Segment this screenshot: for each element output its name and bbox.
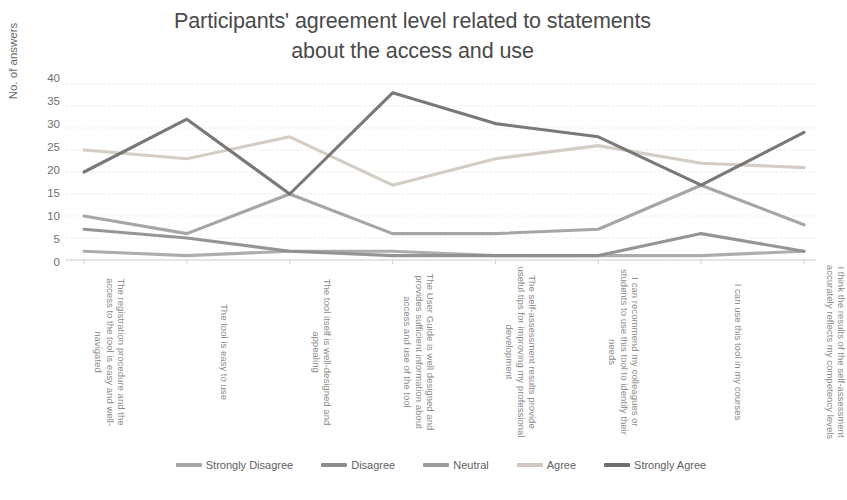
legend-label: Strongly Agree	[634, 459, 706, 471]
chart-title: Participants' agreement level related to…	[60, 6, 765, 66]
series-line-neutral	[84, 185, 804, 233]
legend-item-disagree[interactable]: Disagree	[321, 459, 395, 471]
y-tick-40: 40	[24, 72, 60, 84]
legend-item-strongly-agree[interactable]: Strongly Agree	[604, 459, 706, 471]
x-axis-category-labels: The registration procedure and the acces…	[66, 264, 816, 442]
legend-swatch-icon	[604, 463, 630, 466]
legend-label: Neutral	[453, 459, 488, 471]
legend-swatch-icon	[423, 463, 449, 466]
series-line-strongly-agree	[84, 93, 804, 194]
legend-swatch-icon	[176, 463, 202, 466]
legend-item-neutral[interactable]: Neutral	[423, 459, 488, 471]
y-tick-10: 10	[24, 210, 60, 222]
chart-title-line-1: Participants' agreement level related to…	[60, 6, 765, 36]
x-category-label-3: The tool itself is well-designed and app…	[247, 264, 333, 440]
series-line-agree	[84, 137, 804, 185]
x-category-label-6: I can recommend my colleagues or student…	[555, 264, 641, 440]
y-tick-35: 35	[24, 95, 60, 107]
x-category-label-7: I can use this tool in my courses	[658, 264, 744, 440]
x-category-label-1: The registration procedure and the acces…	[41, 264, 127, 440]
legend-label: Agree	[547, 459, 576, 471]
legend-swatch-icon	[321, 463, 347, 466]
y-tick-20: 20	[24, 164, 60, 176]
y-tick-30: 30	[24, 118, 60, 130]
x-category-label-5: The self-assessment results provide usef…	[452, 264, 538, 440]
y-axis-tick-labels: 40 35 30 25 20 15 10 5 0	[24, 78, 60, 262]
legend-label: Disagree	[351, 459, 395, 471]
legend-item-agree[interactable]: Agree	[517, 459, 576, 471]
x-category-label-8: I think the results of the self-assessme…	[761, 264, 847, 440]
legend-label: Strongly Disagree	[206, 459, 293, 471]
chart-title-line-2: about the access and use	[60, 36, 765, 66]
legend-swatch-icon	[517, 463, 543, 466]
y-axis-title: No. of answers	[7, 0, 23, 126]
x-category-label-2: The tool is easy to use	[144, 264, 230, 440]
y-tick-5: 5	[24, 233, 60, 245]
y-tick-25: 25	[24, 141, 60, 153]
x-category-label-4: The User Guide is well designed and prov…	[350, 264, 436, 440]
legend-item-strongly-disagree[interactable]: Strongly Disagree	[176, 459, 293, 471]
line-chart-svg	[66, 78, 816, 264]
plot-area	[66, 78, 816, 262]
y-tick-15: 15	[24, 187, 60, 199]
chart-legend: Strongly DisagreeDisagreeNeutralAgreeStr…	[66, 452, 816, 478]
